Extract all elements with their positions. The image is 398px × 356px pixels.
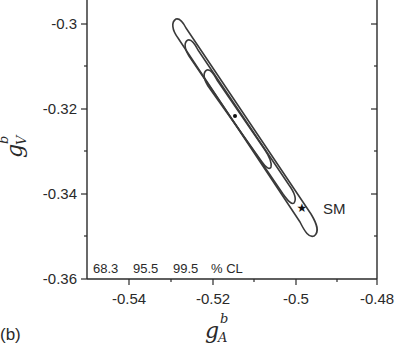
y-axis-title-sub: V (14, 134, 29, 145)
y-tick-labels: -0.3 -0.32 -0.34 -0.36 (43, 15, 77, 287)
cl-level-99: 99.5 (173, 261, 198, 276)
y-tick-label: -0.34 (43, 185, 77, 202)
x-tick-label: -0.52 (196, 290, 230, 307)
confidence-contours (173, 19, 317, 237)
y-tick-label: -0.3 (51, 15, 77, 32)
best-fit-point (233, 114, 237, 118)
contour-95-5 (185, 40, 295, 204)
y-tick-label: -0.32 (43, 100, 77, 117)
panel-label: (b) (0, 325, 21, 344)
contour-99-5 (173, 19, 317, 237)
sm-star-icon: ★ (297, 201, 308, 215)
cl-level-95: 95.5 (133, 261, 158, 276)
x-tick-label: -0.48 (360, 290, 394, 307)
y-axis-title-sup: b (0, 136, 11, 144)
x-axis-title: g b A (205, 311, 228, 345)
y-axis-ticks (81, 24, 377, 279)
x-axis-title-sup: b (220, 311, 228, 326)
plot-frame (87, 0, 377, 279)
sm-label: SM (323, 200, 346, 217)
y-axis-title-main: g (2, 144, 27, 158)
x-tick-label: -0.5 (283, 290, 309, 307)
y-axis-title: g b V (0, 134, 29, 158)
cl-level-68: 68.3 (93, 261, 118, 276)
x-tick-labels: -0.54 -0.52 -0.5 -0.48 (112, 290, 394, 307)
x-axis-ticks (129, 279, 377, 285)
y-tick-label: -0.36 (43, 270, 77, 287)
x-tick-label: -0.54 (112, 290, 146, 307)
cl-legend: 68.3 95.5 99.5 % CL (93, 261, 243, 276)
x-axis-title-main: g (205, 318, 219, 343)
cl-unit: % CL (211, 261, 243, 276)
x-axis-title-sub: A (217, 330, 227, 345)
contour-68-3 (204, 70, 271, 169)
contour-chart: -0.3 -0.32 -0.34 -0.36 -0.54 -0.52 -0.5 … (0, 0, 398, 356)
